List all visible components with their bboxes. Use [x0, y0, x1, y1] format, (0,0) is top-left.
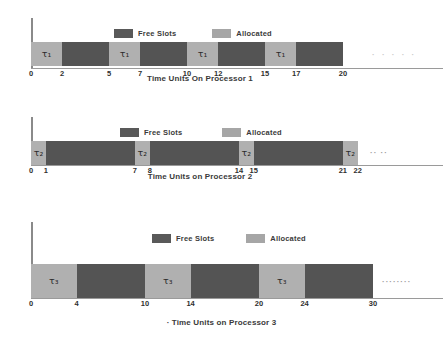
task-label: τ₁: [42, 49, 52, 59]
x-axis-tick-labels: 041014202430: [0, 299, 443, 311]
free-slot-block: [191, 264, 259, 298]
timeline-track: τ₂τ₂τ₂τ₂: [31, 141, 358, 165]
x-tick-label: 0: [29, 299, 33, 308]
x-tick-label: 24: [300, 299, 308, 308]
free-slot-block: [62, 42, 109, 66]
allocated-block: τ₁: [187, 42, 218, 66]
allocated-block: τ₁: [31, 42, 62, 66]
allocated-block: τ₃: [31, 264, 77, 298]
allocated-block: τ₂: [343, 141, 358, 165]
free-slot-block: [254, 141, 343, 165]
task-label: τ₃: [277, 276, 287, 286]
legend-free-slots-label: Free Slots: [144, 128, 182, 137]
allocated-swatch: [222, 128, 241, 137]
legend-free-slots: Free Slots: [114, 29, 176, 38]
allocated-swatch: [246, 234, 265, 243]
free-slot-block: [46, 141, 135, 165]
continuation-dots: · · · · ·: [372, 50, 417, 59]
free-slot-block: [296, 42, 343, 66]
free-slot-block: [150, 141, 239, 165]
allocated-block: τ₂: [135, 141, 150, 165]
legend-allocated: Allocated: [212, 29, 272, 38]
legend-free-slots-label: Free Slots: [138, 29, 176, 38]
legend-allocated-label: Allocated: [270, 234, 306, 243]
x-tick-label: 20: [255, 299, 263, 308]
free-slot-block: [305, 264, 373, 298]
timeline-track: τ₁τ₁τ₁τ₁: [31, 42, 343, 66]
allocated-block: τ₁: [109, 42, 140, 66]
task-label: τ₃: [163, 276, 173, 286]
free-slot-swatch: [120, 128, 139, 137]
x-tick-label: 30: [369, 299, 377, 308]
task-label: τ₂: [242, 148, 252, 158]
legend-allocated: Allocated: [246, 234, 306, 243]
chart-legend: Free SlotsAllocated: [120, 128, 282, 137]
task-label: τ₁: [198, 49, 208, 59]
x-tick-label: 4: [75, 299, 79, 308]
task-label: τ₂: [345, 148, 355, 158]
allocated-block: τ₂: [31, 141, 46, 165]
legend-free-slots: Free Slots: [120, 128, 182, 137]
task-label: τ₂: [138, 148, 148, 158]
free-slot-swatch: [152, 234, 171, 243]
free-slot-block: [218, 42, 265, 66]
x-axis-caption: Time Units On Processor 1: [0, 74, 400, 83]
x-tick-label: 14: [186, 299, 194, 308]
free-slot-block: [77, 264, 145, 298]
allocated-swatch: [212, 29, 231, 38]
allocated-block: τ₁: [265, 42, 296, 66]
free-slot-swatch: [114, 29, 133, 38]
legend-free-slots: Free Slots: [152, 234, 214, 243]
task-label: τ₁: [276, 49, 286, 59]
allocated-block: τ₃: [145, 264, 191, 298]
chart-legend: Free SlotsAllocated: [114, 29, 272, 38]
legend-allocated: Allocated: [222, 128, 282, 137]
x-axis-caption: · Time Units on Processor 3: [0, 318, 443, 327]
x-tick-label: 10: [141, 299, 149, 308]
legend-free-slots-label: Free Slots: [176, 234, 214, 243]
legend-allocated-label: Allocated: [236, 29, 272, 38]
continuation-dots: ·· ··: [370, 148, 388, 157]
allocated-block: τ₃: [259, 264, 305, 298]
x-axis-caption: Time Units on Processor 2: [0, 172, 400, 181]
allocated-block: τ₂: [239, 141, 254, 165]
legend-allocated-label: Allocated: [246, 128, 282, 137]
chart-legend: Free SlotsAllocated: [152, 234, 306, 243]
free-slot-block: [140, 42, 187, 66]
task-label: τ₁: [120, 49, 130, 59]
timeline-track: τ₃τ₃τ₃: [31, 264, 373, 298]
task-label: τ₃: [49, 276, 59, 286]
task-label: τ₂: [34, 148, 44, 158]
continuation-dots: ········: [382, 277, 411, 286]
